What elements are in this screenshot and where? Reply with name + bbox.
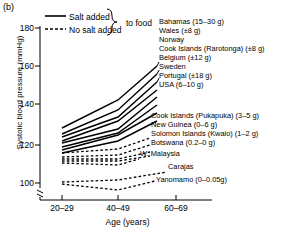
leader-wales (157, 70, 159, 74)
x-axis-ticks (62, 195, 176, 200)
leader-norway (157, 78, 159, 82)
legend-brace-icon (107, 9, 117, 35)
line-yanomamo (62, 181, 155, 190)
figure-panel-b: (b) Systolic blood pressure (mmHg) Age (… (0, 0, 289, 235)
line-bahamas (62, 66, 157, 128)
y-axis-ticks (35, 28, 40, 183)
label-leader-lines (157, 62, 159, 82)
legend-sample-lines (45, 9, 117, 35)
plot-canvas (0, 0, 289, 235)
line-carajas (62, 172, 167, 182)
line-w-malaysia (62, 159, 139, 165)
axis-break-icon (37, 190, 43, 197)
leader-bahamas (157, 62, 159, 66)
